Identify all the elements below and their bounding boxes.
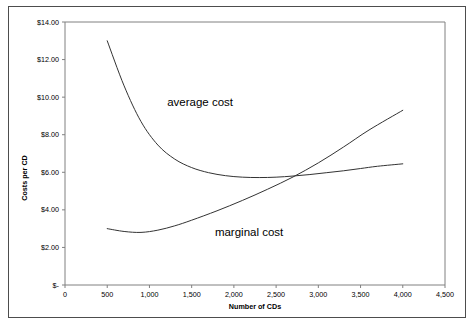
chart-figure: $-$2.00$4.00$6.00$8.00$10.00$12.00$14.00… xyxy=(0,0,473,325)
x-tick-label: 2,500 xyxy=(267,290,285,299)
x-tick-label: 3,500 xyxy=(352,290,370,299)
x-tick-label: 0 xyxy=(63,290,67,299)
x-tick-label: 1,500 xyxy=(183,290,201,299)
y-tick-label: $10.00 xyxy=(37,93,59,102)
series-curve-average-cost xyxy=(107,41,403,178)
x-tick-label: 3,000 xyxy=(309,290,327,299)
chart-svg: $-$2.00$4.00$6.00$8.00$10.00$12.00$14.00… xyxy=(0,0,473,325)
chart-series-group xyxy=(107,41,403,233)
series-curve-marginal-cost xyxy=(107,110,403,232)
x-axis-ticks: 05001,0001,5002,0002,5003,0003,5004,0004… xyxy=(63,285,454,299)
chart-canvas: $-$2.00$4.00$6.00$8.00$10.00$12.00$14.00… xyxy=(0,0,473,325)
series-label-average-cost: average cost xyxy=(167,96,234,108)
y-tick-label: $14.00 xyxy=(37,18,59,27)
x-tick-label: 4,000 xyxy=(394,290,412,299)
x-tick-label: 2,000 xyxy=(225,290,243,299)
x-tick-label: 500 xyxy=(101,290,113,299)
x-tick-label: 1,000 xyxy=(140,290,158,299)
chart-series-labels: average costmarginal cost xyxy=(167,96,284,239)
chart-axes xyxy=(65,22,445,285)
y-tick-label: $2.00 xyxy=(41,243,59,252)
y-tick-label: $4.00 xyxy=(41,205,59,214)
y-axis-ticks: $-$2.00$4.00$6.00$8.00$10.00$12.00$14.00 xyxy=(37,18,65,290)
y-tick-label: $8.00 xyxy=(41,130,59,139)
x-tick-label: 4,500 xyxy=(436,290,454,299)
y-tick-label: $- xyxy=(53,281,60,290)
x-axis-title: Number of CDs xyxy=(229,302,281,311)
y-tick-label: $6.00 xyxy=(41,168,59,177)
y-axis-title: Costs per CD xyxy=(20,155,29,201)
series-label-marginal-cost: marginal cost xyxy=(215,226,284,238)
y-tick-label: $12.00 xyxy=(37,55,59,64)
